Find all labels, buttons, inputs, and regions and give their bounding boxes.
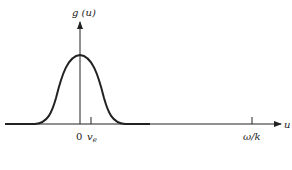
omega-k-label: ω/k xyxy=(243,131,261,142)
y-axis-label: g (u) xyxy=(72,7,96,18)
origin-label: 0 xyxy=(76,131,82,142)
ve-label: ve xyxy=(87,131,97,144)
x-axis-label: u xyxy=(284,119,290,130)
distribution-curve xyxy=(5,55,150,124)
distribution-diagram: g (u) u 0 ve ω/k xyxy=(0,0,292,170)
